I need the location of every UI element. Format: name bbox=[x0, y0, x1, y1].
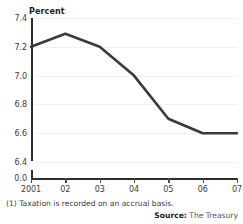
x-axis-tick bbox=[100, 178, 101, 183]
x-axis-tick bbox=[168, 178, 169, 183]
y-tick-label: 6.8 bbox=[15, 100, 27, 109]
x-axis-tick bbox=[31, 178, 32, 183]
data-series-line bbox=[31, 18, 237, 178]
x-tick-label: 02 bbox=[60, 185, 70, 194]
y-tick-label-zero: 0.0 bbox=[14, 174, 27, 183]
x-axis-tick bbox=[237, 178, 238, 183]
x-axis-tick bbox=[203, 178, 204, 183]
y-tick-label: 7.0 bbox=[15, 71, 27, 80]
y-tick-label: 6.4 bbox=[15, 158, 27, 167]
x-tick-label: 06 bbox=[198, 185, 208, 194]
source-label: Source: bbox=[154, 211, 187, 220]
x-tick-label: 03 bbox=[95, 185, 105, 194]
y-tick-label: 7.4 bbox=[15, 14, 27, 23]
x-tick-label: 07 bbox=[232, 185, 242, 194]
chart-footnote: (1) Taxation is recorded on an accrual b… bbox=[6, 199, 174, 208]
x-tick-label: 05 bbox=[163, 185, 173, 194]
y-tick-label: 7.2 bbox=[15, 42, 27, 51]
source-value: The Treasury bbox=[189, 211, 238, 220]
chart-page: Percent 7.47.27.06.86.66.4 0.0 200102030… bbox=[0, 0, 243, 224]
x-axis-tick bbox=[134, 178, 135, 183]
y-axis-title: Percent bbox=[29, 7, 65, 16]
x-axis-tick bbox=[65, 178, 66, 183]
x-tick-label: 04 bbox=[129, 185, 139, 194]
chart-title-clipped bbox=[0, 0, 243, 2]
x-tick-label: 2001 bbox=[21, 185, 41, 194]
y-tick-label: 6.6 bbox=[15, 129, 27, 138]
plot-area: 7.47.27.06.86.66.4 0.0 2001020304050607 bbox=[31, 18, 237, 178]
chart-source: Source: The Treasury bbox=[154, 211, 238, 220]
